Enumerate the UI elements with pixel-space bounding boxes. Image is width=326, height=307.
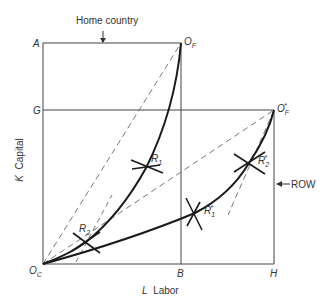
row-label: ROW	[291, 180, 315, 190]
edgeworth-box-diagram	[0, 0, 326, 307]
point-b-label: B	[177, 269, 184, 279]
y-axis-text: Capital	[14, 138, 25, 169]
point-of-label: OF	[184, 37, 196, 47]
point-r2star-label: R2*	[258, 156, 267, 166]
x-axis-var: L	[142, 285, 148, 296]
r2star-sup: *	[264, 154, 267, 161]
home-country-arrowhead	[100, 38, 106, 43]
row-arrowhead	[276, 181, 282, 187]
of-sub: F	[192, 42, 196, 49]
point-h-label: H	[270, 269, 277, 279]
point-ofstar-label: OF*	[277, 104, 287, 114]
point-r2-label: R2	[79, 224, 90, 234]
point-oc-label: OC	[29, 266, 42, 276]
dashed-oc-ofstar	[43, 110, 274, 264]
point-a-label: A	[33, 39, 40, 49]
oc-main: O	[29, 265, 37, 276]
point-g-label: G	[33, 106, 41, 116]
ofstar-sub: F	[285, 109, 289, 116]
r1star-isoquants	[186, 198, 202, 230]
point-r1star-label: R1*	[204, 206, 213, 216]
ofstar-sup: *	[284, 102, 287, 109]
r1star-sup: *	[210, 204, 213, 211]
r2star-sub: 2	[265, 161, 269, 168]
x-axis-text: Labor	[153, 285, 179, 296]
point-r1-label: R1	[151, 154, 162, 164]
oc-sub: C	[37, 271, 42, 278]
y-axis-label: K Capital	[15, 130, 25, 190]
r2-sub: 2	[86, 229, 90, 236]
r1star-sub: 1	[211, 211, 215, 218]
y-axis-var: K	[14, 175, 25, 182]
r1-sub: 1	[158, 159, 162, 166]
x-axis-label: L Labor	[142, 286, 179, 296]
home-country-label: Home country	[76, 16, 138, 26]
of-main: O	[184, 36, 192, 47]
